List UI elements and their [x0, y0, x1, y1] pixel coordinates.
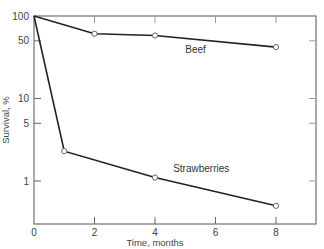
x-tick-label: 0 [31, 227, 37, 238]
data-point-marker [62, 149, 67, 154]
series-beef: Beef [34, 16, 279, 55]
y-axis-title: Survival, % [0, 96, 11, 144]
y-tick-label: 50 [18, 35, 30, 46]
data-point-marker [92, 31, 97, 36]
x-tick-label: 6 [213, 227, 219, 238]
x-tick-label: 2 [92, 227, 98, 238]
y-tick-label: 5 [23, 118, 29, 129]
y-tick-label: 1 [23, 176, 29, 187]
x-axis-title: Time, months [126, 237, 183, 248]
y-tick-label: 10 [18, 93, 30, 104]
survival-chart: 02468 151050100 BeefStrawberries Time, m… [0, 0, 324, 249]
data-point-marker [152, 175, 157, 180]
y-tick-label: 100 [12, 11, 29, 22]
data-point-marker [273, 44, 278, 49]
x-tick-label: 8 [273, 227, 279, 238]
data-point-marker [152, 33, 157, 38]
data-point-marker [273, 203, 278, 208]
series-label: Strawberries [173, 163, 229, 174]
data-series: BeefStrawberries [34, 16, 279, 208]
x-axis-ticks: 02468 [31, 16, 279, 238]
series-strawberries: Strawberries [34, 16, 279, 208]
series-label: Beef [185, 44, 206, 55]
